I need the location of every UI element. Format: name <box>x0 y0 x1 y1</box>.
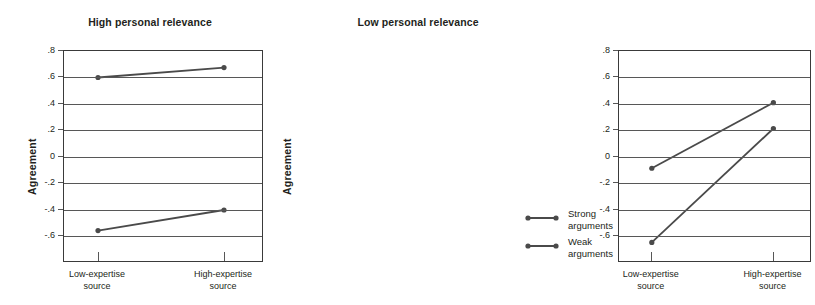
x-tick-mark <box>224 252 225 261</box>
y-tick-mark <box>613 156 618 157</box>
y-tick-label: .2 <box>5 125 55 134</box>
legend-marker-weak-icon <box>524 242 560 250</box>
plot-area-high <box>63 50 263 262</box>
gridline <box>64 130 262 131</box>
x-axis-label-line: source <box>712 281 815 293</box>
series-line <box>98 210 224 231</box>
legend-item-weak-arguments: Weak arguments <box>524 238 631 266</box>
legend-label-strong: Strong arguments <box>568 208 632 231</box>
data-point <box>649 240 654 245</box>
y-tick-mark <box>58 129 63 130</box>
x-axis-label-line: source <box>163 281 283 293</box>
y-tick-mark <box>58 209 63 210</box>
y-tick-mark <box>613 182 618 183</box>
legend-marker-strong-icon <box>524 214 560 222</box>
gridline <box>619 183 810 184</box>
gridline <box>64 183 262 184</box>
x-axis-label: High-expertisesource <box>163 269 283 292</box>
data-point <box>649 166 654 171</box>
y-tick-label: -.2 <box>560 178 610 187</box>
gridline <box>64 236 262 237</box>
x-axis-label-line: High-expertise <box>163 269 283 281</box>
gridline <box>619 104 810 105</box>
x-axis-label: Low-expertisesource <box>591 269 711 292</box>
chart-legend: Strong arguments Weak arguments <box>524 210 631 266</box>
y-tick-mark <box>58 182 63 183</box>
y-tick-mark <box>613 103 618 104</box>
gridline <box>619 210 810 211</box>
series-line <box>98 68 224 78</box>
x-axis-label-line: Low-expertise <box>591 269 711 281</box>
y-tick-label: .6 <box>5 72 55 81</box>
gridline <box>619 130 810 131</box>
y-axis-title-low: Agreement <box>281 138 293 195</box>
x-tick-mark <box>651 252 652 261</box>
panel-high-personal-relevance: High personal relevance Agreement .8.6.4… <box>0 0 300 305</box>
series-weak-arguments <box>95 207 226 233</box>
series-line <box>652 103 774 169</box>
x-tick-mark <box>98 252 99 261</box>
legend-label-weak-line2: arguments <box>568 248 632 260</box>
x-axis-label: High-expertisesource <box>712 269 815 292</box>
y-tick-mark <box>58 235 63 236</box>
gridline <box>64 104 262 105</box>
gridline <box>619 236 810 237</box>
y-tick-label: -.4 <box>5 205 55 214</box>
y-tick-label: -.6 <box>5 231 55 240</box>
y-tick-label: .8 <box>560 46 610 55</box>
x-axis-label-line: source <box>591 281 711 293</box>
panel-title-low: Low personal relevance <box>218 16 618 28</box>
y-tick-mark <box>58 50 63 51</box>
x-axis-label-line: Low-expertise <box>37 269 157 281</box>
series-line <box>652 129 774 243</box>
panel-low-personal-relevance: Low personal relevance Agreement .8.6.4.… <box>300 0 520 305</box>
y-tick-label: 0 <box>560 152 610 161</box>
legend-label-strong-line2: arguments <box>568 220 632 232</box>
x-tick-mark <box>773 252 774 261</box>
data-point <box>221 65 226 70</box>
y-tick-label: .6 <box>560 72 610 81</box>
legend-label-strong-line1: Strong <box>568 208 632 220</box>
y-tick-label: 0 <box>5 152 55 161</box>
gridline <box>619 77 810 78</box>
y-tick-mark <box>58 103 63 104</box>
y-tick-label: .4 <box>560 99 610 108</box>
gridline <box>64 77 262 78</box>
x-axis-label-line: High-expertise <box>712 269 815 281</box>
gridline <box>64 157 262 158</box>
x-axis-label: Low-expertisesource <box>37 269 157 292</box>
plot-area-low <box>618 50 811 262</box>
legend-label-weak: Weak arguments <box>568 236 632 259</box>
y-tick-mark <box>58 76 63 77</box>
y-tick-mark <box>613 76 618 77</box>
series-weak-arguments <box>649 126 776 245</box>
gridline <box>64 210 262 211</box>
y-tick-label: .4 <box>5 99 55 108</box>
y-tick-mark <box>58 156 63 157</box>
gridline <box>619 157 810 158</box>
x-axis-label-line: source <box>37 281 157 293</box>
legend-label-weak-line1: Weak <box>568 236 632 248</box>
y-tick-label: .8 <box>5 46 55 55</box>
y-tick-mark <box>613 50 618 51</box>
y-tick-label: -.2 <box>5 178 55 187</box>
series-strong-arguments <box>649 100 776 171</box>
y-tick-mark <box>613 129 618 130</box>
legend-item-strong-arguments: Strong arguments <box>524 210 631 238</box>
data-point <box>95 228 100 233</box>
y-tick-label: .2 <box>560 125 610 134</box>
